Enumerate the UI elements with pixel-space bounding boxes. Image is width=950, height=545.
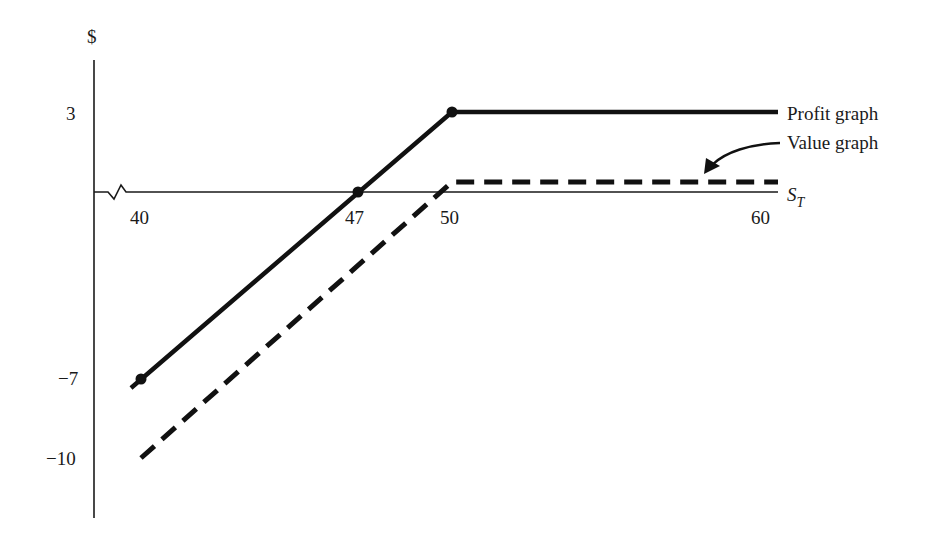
marker-50: [447, 107, 458, 118]
y-tick-minus-7: −7: [58, 368, 78, 389]
y-tick-3: 3: [66, 103, 76, 124]
y-tick-minus-10: −10: [46, 448, 76, 469]
marker-47: [353, 187, 364, 198]
value-graph-line: [141, 182, 778, 458]
value-graph-label: Value graph: [787, 132, 879, 153]
x-tick-40: 40: [130, 207, 149, 228]
payoff-chart: $ 3 −7 −10 40 47 50 60 Profit graph Valu…: [0, 0, 950, 545]
y-axis-label: $: [87, 26, 97, 47]
x-axis-label: ST: [787, 184, 806, 210]
x-tick-50: 50: [440, 207, 459, 228]
profit-graph-label: Profit graph: [787, 103, 879, 124]
x-tick-47: 47: [345, 207, 364, 228]
profit-graph-line: [131, 112, 778, 388]
value-graph-arrow: [712, 143, 780, 165]
x-tick-60: 60: [751, 207, 770, 228]
marker-40: [136, 374, 147, 385]
